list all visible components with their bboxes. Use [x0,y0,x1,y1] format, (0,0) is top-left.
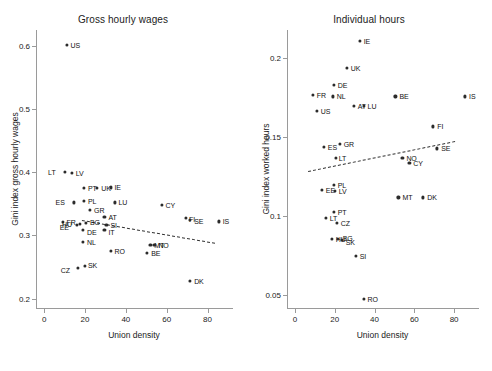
y-tick-label: 0.05 [265,291,281,300]
data-point [70,171,73,174]
data-point-label: LT [48,168,55,175]
data-point [146,251,149,254]
data-point [330,237,333,240]
data-point [338,142,341,145]
x-axis-label-left: Union density [36,330,232,340]
data-point [217,220,220,223]
data-point [354,254,357,257]
data-point [103,229,106,232]
data-point [81,229,84,232]
data-point-label: CZ [341,219,350,226]
data-point-label: FI [437,123,443,130]
data-layer-left: USLTLVPTUKIEESPLLUGRCYATFREEHUBGSIDEITFI… [37,30,233,308]
data-point [109,250,112,253]
data-point [320,188,323,191]
data-point-label: SE [194,218,203,225]
data-point [65,44,68,47]
data-point [84,221,87,224]
data-point [83,265,86,268]
y-tick-mark [32,299,36,300]
x-tick-label: 80 [196,315,220,324]
panel-individual-hours: Individual hours Gini index worked hours… [246,0,492,371]
x-tick-mark [85,309,86,313]
y-tick-mark [32,46,36,47]
y-tick-mark [283,58,287,59]
y-tick-label: 0.2 [270,54,281,63]
data-point [333,190,336,193]
x-tick-mark [414,309,415,313]
data-point [103,215,106,218]
data-point [331,95,334,98]
data-point [113,201,116,204]
x-tick-mark [295,309,296,313]
data-point-label: MT [402,194,412,201]
data-layer-right: IEUKDEFRNLBEISATLUUSFIGRESSELTNOCYPLEELV… [288,30,479,308]
data-point-label: NL [337,93,346,100]
y-tick-label: 0.4 [19,168,30,177]
data-point [352,104,355,107]
data-point [322,145,325,148]
data-point [335,221,338,224]
y-tick-mark [32,235,36,236]
x-tick-label: 20 [73,315,97,324]
panel-title-right: Individual hours [246,14,492,25]
x-tick-label: 40 [114,315,138,324]
data-point-label: UK [351,64,361,71]
x-tick-mark [208,309,209,313]
data-point [436,147,439,150]
data-point [397,196,400,199]
plot-area-right: IEUKDEFRNLBEISATLUUSFIGRESSELTNOCYPLEELV… [287,30,479,309]
x-tick-mark [454,309,455,313]
data-point-label: IS [223,218,229,225]
y-tick-mark [32,172,36,173]
data-point-label: GR [344,140,354,147]
data-point-label: DE [87,228,97,235]
data-point-label: PL [88,197,96,204]
data-point [149,243,152,246]
y-tick-label: 0.3 [19,231,30,240]
data-point-label: DK [427,194,437,201]
data-point [109,186,112,189]
data-point-label: ES [56,199,65,206]
data-point-label: ES [328,143,337,150]
data-point [463,95,466,98]
x-tick-mark [375,309,376,313]
data-point-label: SI [110,221,116,228]
data-point-label: LU [368,102,377,109]
data-point-label: SE [441,145,450,152]
data-point-label: RO [368,295,378,302]
data-point [160,203,163,206]
data-point-label: IT [108,228,114,235]
data-point-label: CY [166,202,176,209]
data-point-label: LV [339,188,347,195]
data-point [408,161,411,164]
x-tick-label: 40 [363,315,387,324]
data-point-label: IS [469,93,475,100]
data-point [96,186,99,189]
plot-area-left: USLTLVPTUKIEESPLLUGRCYATFREEHUBGSIDEITFI… [36,30,233,309]
data-point [82,186,85,189]
y-tick-label: 0.1 [270,212,281,221]
data-point-label: DK [194,277,204,284]
x-tick-mark [335,309,336,313]
data-point [184,217,187,220]
data-point-label: SK [346,238,355,245]
data-point-label: FR [317,91,326,98]
data-point [76,266,79,269]
x-tick-mark [126,309,127,313]
data-point-label: SI [360,252,366,259]
data-point-label: AT [108,214,116,221]
data-point-label: LV [76,169,84,176]
data-point-label: LT [339,154,346,161]
data-point-label: BE [399,93,408,100]
x-tick-label: 0 [283,315,307,324]
y-tick-label: 0.15 [265,133,281,142]
data-point-label: BE [151,250,160,257]
y-tick-mark [283,216,287,217]
data-point-label: NO [158,241,168,248]
y-tick-mark [32,109,36,110]
data-point [362,297,365,300]
data-point-label: NL [87,238,96,245]
data-point [401,156,404,159]
data-point [81,240,84,243]
